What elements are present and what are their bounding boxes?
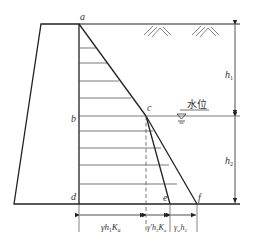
label-dim-3: γwh2 (174, 223, 188, 233)
label-dim-2: γ′h2Ka (147, 223, 167, 233)
retaining-wall (14, 24, 79, 204)
earth-pressure-diagram: 水位 a b c d e f h1 h2 γh1Ka γ′h2Ka γwh2 (0, 0, 254, 242)
water-level-icon (177, 114, 186, 123)
label-f: f (198, 192, 202, 203)
label-h1: h1 (225, 69, 233, 81)
label-dim-1: γh1Ka (101, 222, 121, 233)
label-e: e (163, 192, 168, 203)
water-level-label: 水位 (187, 98, 207, 110)
label-c: c (147, 102, 152, 113)
label-b: b (71, 113, 76, 124)
line-c-e (146, 116, 170, 204)
label-h2: h2 (225, 155, 233, 167)
soil-hatch-icon (144, 26, 219, 37)
line-a-c (79, 24, 146, 116)
label-a: a (80, 11, 85, 22)
label-d: d (71, 191, 77, 202)
line-c-f (146, 116, 197, 204)
